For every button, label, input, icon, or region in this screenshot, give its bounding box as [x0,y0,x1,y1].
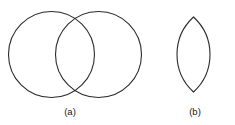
right-circle [56,12,142,98]
panel-b-shapes [177,17,210,92]
panel-b-caption: (b) [150,107,235,117]
left-circle [9,12,95,98]
lens-shape [177,17,210,92]
panel-a-shapes [9,12,142,98]
panel-a-caption: (a) [0,107,140,117]
figure-container: (a) (b) [0,0,235,125]
